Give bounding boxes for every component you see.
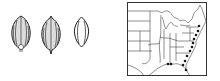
grain-side-view	[73, 15, 90, 49]
grain-dorsal-view	[10, 14, 32, 54]
seed-illustration-icon	[73, 15, 90, 49]
us-map-icon	[128, 3, 207, 76]
grain-ventral-view	[40, 14, 62, 56]
seed-illustration-icon	[10, 14, 32, 54]
occurrence-dots	[167, 25, 201, 72]
distribution-map	[127, 2, 207, 76]
seed-illustration-icon	[40, 14, 62, 56]
